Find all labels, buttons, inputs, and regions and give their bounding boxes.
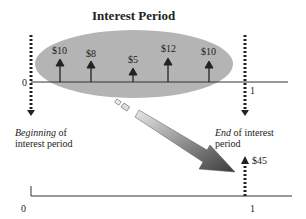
top-end-label: 1 [250, 85, 255, 96]
cash-flow-label: $8 [86, 48, 96, 59]
cash-flow-label: $5 [128, 54, 138, 65]
top-start-label: 0 [22, 77, 27, 88]
bottom-end-label: 1 [250, 203, 255, 214]
cash-flow-label: $10 [201, 46, 216, 57]
end-annotation: End of interest period [215, 127, 274, 149]
beginning-annotation: Beginning of interest period [15, 127, 72, 149]
bottom-start-label: 0 [21, 203, 26, 214]
total-label: $45 [252, 155, 267, 166]
diagram-title: Interest Period [92, 8, 175, 24]
cash-flow-label: $12 [161, 43, 176, 54]
cash-flow-label: $10 [52, 45, 67, 56]
diagram-canvas [0, 0, 306, 219]
